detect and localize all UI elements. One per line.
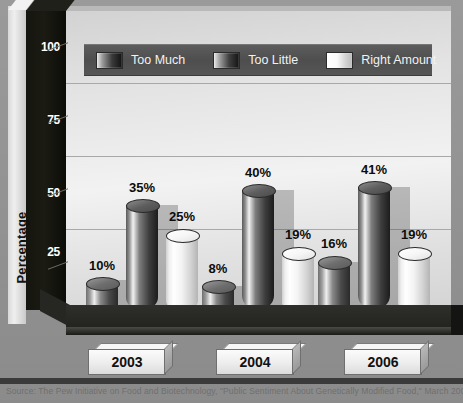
footer-divider <box>0 378 463 384</box>
x-axis-label-2004[interactable]: 2004 <box>216 349 294 375</box>
bar-label-2003-right-amount: 25% <box>148 209 216 224</box>
legend-item-right-amount[interactable]: Right Amount <box>326 52 436 69</box>
y-axis-title: Percentage <box>14 203 29 293</box>
bar-label-2006-too-little: 41% <box>340 162 408 177</box>
legend: Too Much Too Little Right Amount <box>84 44 432 76</box>
bar-2006-too-little[interactable] <box>358 187 390 310</box>
bar-cap <box>166 229 200 243</box>
bar-label-2003-too-little: 35% <box>108 180 176 195</box>
x-axis-label-2006[interactable]: 2006 <box>344 349 422 375</box>
floor-top <box>66 305 451 327</box>
legend-label-right-amount: Right Amount <box>361 53 436 67</box>
bar-cap <box>202 280 236 294</box>
floor-front-edge <box>66 327 451 335</box>
bar-body <box>358 187 390 310</box>
bar-label-2006-right-amount: 19% <box>380 227 448 242</box>
bar-2006-too-much[interactable] <box>318 262 350 310</box>
gridline-50 <box>66 156 451 157</box>
legend-swatch-icon-too-much <box>96 52 123 69</box>
bar-cap <box>242 184 276 198</box>
bar-cap <box>398 247 432 261</box>
plot-top-edge <box>66 6 451 11</box>
bar-body <box>242 190 274 310</box>
gridline-75 <box>66 83 451 84</box>
bar-2004-right-amount[interactable] <box>282 253 314 310</box>
source-note: Source: The Pew Initiative on Food and B… <box>6 386 461 396</box>
chart-container: 100 75 50 25 0 Percentage Too Much Too L… <box>0 0 463 403</box>
bar-cap <box>86 277 120 291</box>
bar-cap <box>358 181 392 195</box>
y-tick-label-25: 25 <box>28 245 60 259</box>
floor-right-edge <box>451 305 463 335</box>
x-axis-label-2003[interactable]: 2003 <box>88 349 166 375</box>
legend-label-too-little: Too Little <box>248 53 298 67</box>
bar-body <box>282 253 314 310</box>
bar-cap <box>318 256 352 270</box>
legend-item-too-much[interactable]: Too Much <box>96 52 185 69</box>
bar-body <box>398 253 430 310</box>
legend-swatch-icon-right-amount <box>326 52 353 69</box>
legend-label-too-much: Too Much <box>131 53 185 67</box>
legend-swatch-icon-too-little <box>213 52 240 69</box>
bar-label-2004-too-little: 40% <box>224 165 292 180</box>
bar-2006-right-amount[interactable] <box>398 253 430 310</box>
bar-2004-too-little[interactable] <box>242 190 274 310</box>
legend-item-too-little[interactable]: Too Little <box>213 52 298 69</box>
